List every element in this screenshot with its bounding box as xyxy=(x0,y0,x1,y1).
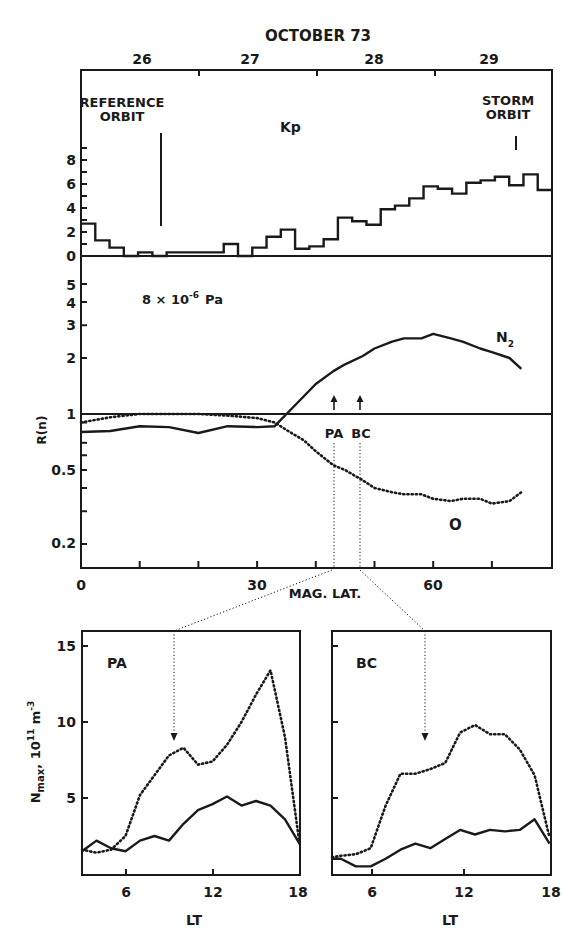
down-arrow-icon xyxy=(171,733,178,741)
rn-x-ticks xyxy=(140,561,492,568)
pa-reference-curve xyxy=(82,797,300,852)
pa-y-labels: 5 10 15 xyxy=(57,638,77,806)
rn-y-labels: 5 4 3 2 1 0.5 0.2 xyxy=(51,277,76,551)
down-arrow-icon xyxy=(422,733,429,741)
pa-panel-label: PA xyxy=(107,655,127,671)
up-arrow-icon xyxy=(331,395,338,402)
storm-orbit-label-2: ORBIT xyxy=(486,107,531,122)
bc-reference-curve xyxy=(332,819,550,866)
bc-panel-label: BC xyxy=(356,655,377,671)
svg-text:4: 4 xyxy=(66,200,76,216)
svg-text:18: 18 xyxy=(288,884,307,900)
pa-x-labels: 6 12 18 xyxy=(121,884,308,900)
up-arrow-icon xyxy=(357,395,364,402)
bc-panel: 6 12 18 LT BC xyxy=(332,631,561,928)
bc-storm-curve xyxy=(332,725,550,857)
bc-marker xyxy=(357,395,364,569)
svg-text:1: 1 xyxy=(66,406,76,422)
rn-panel: 5 4 3 2 1 0.5 0.2 0 30 60 MAG. LAT. R(n)… xyxy=(35,256,552,601)
svg-text:6: 6 xyxy=(367,884,377,900)
bc-marker-label: BC xyxy=(351,426,370,441)
day-label-26: 26 xyxy=(132,51,151,67)
pa-marker xyxy=(331,395,338,569)
o-label: O xyxy=(449,516,462,534)
svg-text:10: 10 xyxy=(57,714,77,730)
svg-text:15: 15 xyxy=(57,638,76,654)
svg-text:0: 0 xyxy=(66,248,76,264)
svg-text:12: 12 xyxy=(203,884,222,900)
pa-panel: 5 10 15 6 12 18 LT PA xyxy=(57,631,308,928)
kp-step-line xyxy=(81,174,552,256)
pa-lt-label: LT xyxy=(186,912,203,928)
svg-text:12: 12 xyxy=(454,884,473,900)
svg-text:30: 30 xyxy=(247,577,267,593)
n2-curve xyxy=(81,334,521,433)
bc-x-labels: 6 12 18 xyxy=(367,884,561,900)
svg-text:8: 8 xyxy=(66,152,76,168)
rn-axis-label: R(n) xyxy=(35,416,49,445)
svg-text:0.5: 0.5 xyxy=(51,462,76,478)
month-title: OCTOBER 73 xyxy=(265,27,371,45)
pressure-label: 8 × 10-6Pa xyxy=(142,290,223,307)
svg-text:5: 5 xyxy=(66,790,76,806)
svg-text:3: 3 xyxy=(66,317,76,333)
svg-text:2: 2 xyxy=(66,224,76,240)
svg-text:60: 60 xyxy=(423,577,443,593)
pa-marker-label: PA xyxy=(325,426,343,441)
reference-orbit-label-1: REFERENCE xyxy=(80,95,165,110)
svg-text:6: 6 xyxy=(121,884,131,900)
svg-text:4: 4 xyxy=(66,295,76,311)
pa-storm-curve xyxy=(82,670,300,852)
svg-text:2: 2 xyxy=(66,350,76,366)
storm-orbit-label-1: STORM xyxy=(482,93,534,108)
nmax-axis-label: Nmax, 1011 m-3 xyxy=(26,701,46,804)
pa-y-ticks xyxy=(82,646,213,875)
svg-text:0.2: 0.2 xyxy=(51,535,76,551)
figure-canvas: OCTOBER 73 26 27 28 29 0 2 4 6 8 xyxy=(0,0,583,946)
kp-label: Kp xyxy=(280,119,301,135)
n2-label: N2 xyxy=(496,329,514,349)
svg-text:18: 18 xyxy=(541,884,560,900)
rn-x-labels: 0 30 60 xyxy=(76,577,443,593)
day-label-29: 29 xyxy=(479,51,498,67)
kp-panel: OCTOBER 73 26 27 28 29 0 2 4 6 8 xyxy=(66,27,552,264)
day-label-27: 27 xyxy=(240,51,259,67)
kp-y-labels: 0 2 4 6 8 xyxy=(66,152,76,264)
svg-text:0: 0 xyxy=(76,577,86,593)
mag-lat-label: MAG. LAT. xyxy=(289,586,361,601)
svg-text:5: 5 xyxy=(66,277,76,293)
reference-orbit-label-2: ORBIT xyxy=(100,109,145,124)
day-label-28: 28 xyxy=(364,51,383,67)
svg-text:6: 6 xyxy=(66,176,76,192)
bc-lt-label: LT xyxy=(442,912,459,928)
